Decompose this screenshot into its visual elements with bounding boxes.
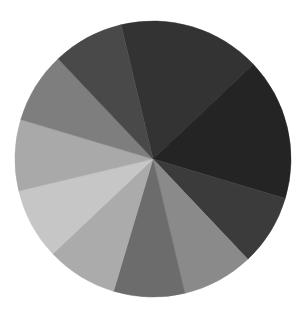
pie-chart-svg — [0, 0, 307, 320]
pie-chart — [0, 0, 307, 320]
